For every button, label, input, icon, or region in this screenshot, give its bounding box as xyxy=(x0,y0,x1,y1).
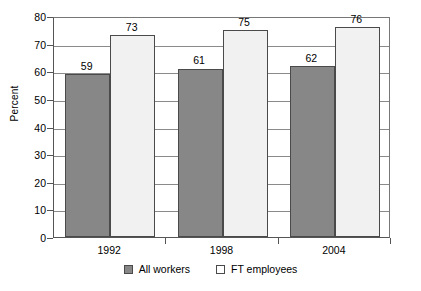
bar-1992-all-workers xyxy=(65,74,110,237)
bar-value-label: 75 xyxy=(222,17,267,28)
y-axis-tick-label: 60 xyxy=(0,67,46,77)
legend-label: FT employees xyxy=(231,264,297,275)
bar-2004-all-workers xyxy=(290,66,335,237)
y-axis-tick-label: 70 xyxy=(0,40,46,50)
legend-swatch-icon xyxy=(124,265,133,274)
bar-2004-ft-employees xyxy=(335,27,380,237)
y-axis-tick-label: 0 xyxy=(0,233,46,243)
x-axis-tick-label: 2004 xyxy=(278,244,390,256)
bar-value-label: 59 xyxy=(64,61,109,72)
bar-1998-all-workers xyxy=(178,69,223,238)
y-axis-tick-label: 40 xyxy=(0,123,46,133)
chart-legend: All workersFT employees xyxy=(0,264,421,275)
x-axis-tick-label: 1998 xyxy=(165,244,277,256)
legend-swatch-icon xyxy=(216,265,225,274)
bar-chart: Percent 80706050403020100 597361756276 1… xyxy=(0,0,421,291)
bar-value-label: 76 xyxy=(334,14,379,25)
legend-item: FT employees xyxy=(216,264,297,275)
x-axis-tick-mark xyxy=(390,238,391,244)
bar-value-label: 73 xyxy=(109,22,154,33)
y-axis-tick-label: 20 xyxy=(0,178,46,188)
plot-area xyxy=(53,17,390,238)
legend-item: All workers xyxy=(124,264,190,275)
y-axis-tick-label: 50 xyxy=(0,95,46,105)
bar-1992-ft-employees xyxy=(110,35,155,237)
legend-label: All workers xyxy=(139,264,190,275)
y-axis-tick-label: 10 xyxy=(0,205,46,215)
x-axis-tick-label: 1992 xyxy=(53,244,165,256)
y-axis-tick-label: 80 xyxy=(0,12,46,22)
y-axis-tick-label: 30 xyxy=(0,150,46,160)
bar-value-label: 61 xyxy=(177,55,222,66)
y-axis-tick-mark xyxy=(47,238,53,239)
bar-1998-ft-employees xyxy=(223,30,268,237)
bar-value-label: 62 xyxy=(289,53,334,64)
